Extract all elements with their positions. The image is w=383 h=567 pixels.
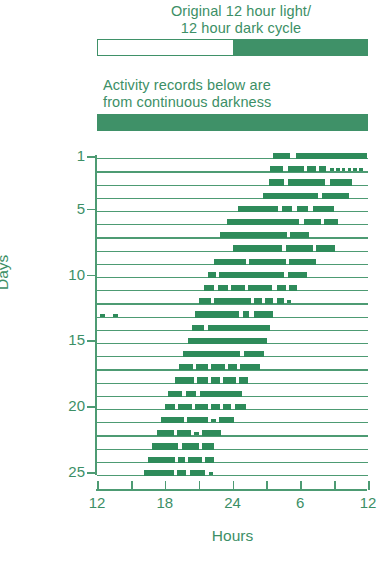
actogram-day-row	[97, 440, 368, 453]
activity-bout	[263, 193, 318, 199]
activity-bout	[270, 166, 284, 172]
activity-bout	[192, 325, 204, 331]
activity-bout	[287, 300, 292, 303]
activity-bout	[243, 311, 250, 317]
actogram-day-row	[97, 256, 368, 269]
activity-bout	[195, 404, 207, 410]
activity-bout	[202, 430, 221, 436]
activity-bout	[196, 364, 207, 370]
activity-bout	[182, 443, 199, 449]
activity-bout	[168, 391, 182, 397]
activity-bout	[183, 351, 241, 357]
activity-bout	[288, 272, 307, 278]
activity-bout	[211, 419, 216, 422]
actogram-day-row	[97, 269, 368, 282]
actogram-day-row	[97, 229, 368, 242]
activity-bout	[208, 325, 270, 331]
activity-bout	[214, 298, 250, 304]
activity-bout	[273, 153, 290, 159]
activity-bout	[330, 168, 335, 171]
activity-bout	[239, 377, 248, 383]
constant-darkness-schedule-bar	[97, 114, 368, 131]
activity-bout	[304, 219, 321, 225]
activity-bout	[195, 311, 239, 317]
activity-bout	[228, 364, 237, 370]
x-axis-line	[96, 489, 367, 491]
actogram-day-row	[97, 414, 368, 427]
actogram-day-row	[97, 427, 368, 440]
y-axis-tick	[87, 472, 96, 474]
activity-bout	[200, 391, 242, 397]
activity-bout	[177, 470, 186, 476]
y-axis-tick	[87, 275, 96, 277]
activity-bout	[319, 166, 326, 172]
actogram-day-row	[97, 216, 368, 229]
activity-bout	[208, 272, 216, 278]
activity-bout	[100, 314, 105, 317]
actogram-day-row	[97, 374, 368, 387]
activity-bout	[288, 166, 304, 172]
day-baseline	[97, 171, 368, 172]
x-axis-tick-label: 12	[348, 494, 383, 511]
x-axis-tick	[300, 481, 302, 490]
actogram-day-row	[97, 176, 368, 189]
activity-bout	[313, 206, 334, 212]
activity-bout	[113, 314, 119, 317]
actogram-day-row	[97, 388, 368, 401]
activity-bout	[165, 404, 175, 410]
activity-bout	[178, 404, 192, 410]
actogram-day-rows	[97, 150, 368, 480]
actogram-day-row	[97, 308, 368, 321]
activity-bout	[286, 245, 313, 251]
actogram-day-row	[97, 467, 368, 480]
x-axis-tick-label: 6	[280, 494, 320, 511]
actogram-day-row	[97, 401, 368, 414]
schedule-segment-light	[98, 40, 233, 55]
activity-bout	[219, 417, 234, 423]
activity-bout	[238, 206, 278, 212]
activity-bout	[322, 193, 349, 199]
x-axis-tick	[368, 481, 370, 490]
activity-bout	[290, 232, 309, 238]
y-axis-tick-label: 5	[49, 200, 85, 217]
actogram-day-row	[97, 295, 368, 308]
actogram-day-row	[97, 322, 368, 335]
activity-bout	[324, 219, 338, 225]
activity-bout	[330, 179, 353, 185]
day-baseline	[97, 475, 368, 476]
light-dark-cycle-caption: Original 12 hour light/ 12 hour dark cyc…	[106, 3, 376, 37]
y-axis-tick	[87, 156, 96, 158]
activity-bout	[214, 259, 246, 265]
activity-bout	[202, 443, 214, 449]
x-axis-tick	[266, 481, 268, 490]
x-axis-tick	[199, 481, 201, 490]
schedule-segment-dark	[233, 40, 368, 55]
y-axis-tick-label: 10	[49, 266, 85, 283]
activity-bout	[240, 364, 259, 370]
activity-bout	[289, 259, 316, 265]
actogram-day-row	[97, 163, 368, 176]
actogram-plot-area	[97, 150, 368, 480]
activity-bout	[161, 417, 184, 423]
actogram-figure: Original 12 hour light/ 12 hour dark cyc…	[0, 0, 383, 567]
activity-bout	[194, 432, 199, 435]
activity-bout	[205, 457, 214, 463]
actogram-day-row	[97, 282, 368, 295]
activity-bout	[178, 457, 185, 463]
y-axis-title: Days	[0, 255, 12, 290]
day-baseline	[97, 409, 368, 410]
activity-bout	[209, 472, 214, 475]
light-dark-schedule-bar	[97, 39, 368, 56]
x-axis-tick	[334, 481, 336, 490]
x-axis-tick	[131, 481, 133, 490]
y-axis-tick-label: 20	[49, 397, 85, 414]
activity-bout	[223, 404, 231, 410]
y-axis-tick-label: 15	[49, 331, 85, 348]
actogram-day-row	[97, 348, 368, 361]
activity-bout	[231, 285, 245, 291]
activity-bout	[204, 285, 214, 291]
y-axis-tick	[87, 340, 96, 342]
activity-bout	[254, 311, 273, 317]
activity-bout	[227, 219, 299, 225]
actogram-day-row	[97, 335, 368, 348]
